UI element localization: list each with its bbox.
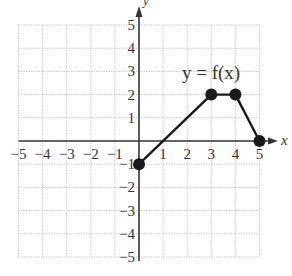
y-axis-arrow-icon	[136, 6, 143, 17]
y-tick-label: −5	[119, 249, 135, 265]
x-axis-label: x	[280, 132, 288, 148]
x-tick-label: −3	[59, 146, 75, 162]
x-tick-label: 4	[232, 146, 240, 162]
y-tick-label: 3	[128, 63, 136, 79]
data-point-marker	[254, 135, 266, 147]
x-tick-label: 2	[183, 146, 191, 162]
y-tick-label: 2	[128, 87, 136, 103]
y-tick-label: 1	[128, 110, 136, 126]
y-tick-label: −3	[119, 203, 135, 219]
y-tick-label: 4	[128, 40, 136, 56]
axes: xy	[19, 0, 289, 261]
x-tick-label: −2	[83, 146, 99, 162]
y-tick-label: 5	[128, 17, 136, 33]
y-axis-label: y	[141, 0, 149, 8]
function-label: y = f(x)	[182, 62, 240, 84]
function-graph: xy −5−4−3−2−11234554321−1−2−3−4−5 y = f(…	[0, 0, 292, 276]
y-tick-label: −2	[119, 179, 135, 195]
data-point-marker	[229, 89, 241, 101]
x-tick-label: −4	[35, 146, 51, 162]
x-tick-label: 5	[256, 146, 264, 162]
x-tick-label: −5	[11, 146, 27, 162]
function-curve	[133, 89, 266, 171]
y-tick-label: −4	[119, 226, 135, 242]
x-tick-label: 3	[208, 146, 216, 162]
y-tick-label: −1	[119, 156, 135, 172]
x-axis-arrow-icon	[268, 138, 278, 145]
data-point-marker	[205, 89, 217, 101]
function-line	[139, 95, 260, 165]
x-tick-label: 1	[159, 146, 167, 162]
data-point-marker	[133, 158, 145, 170]
